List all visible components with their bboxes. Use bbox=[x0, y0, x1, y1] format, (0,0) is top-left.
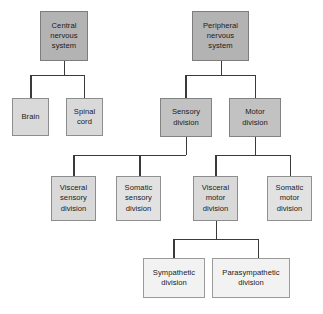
node-parasympathetic-division[interactable]: Parasympathetic division bbox=[212, 258, 290, 298]
connector-sensory-stem bbox=[186, 137, 188, 155]
node-somatic-sensory-division[interactable]: Somatic sensory division bbox=[116, 176, 161, 221]
connector-to-parasympathetic bbox=[258, 239, 260, 259]
connector-pns-bar bbox=[185, 75, 256, 77]
connector-cns-to-spinal-cord bbox=[84, 75, 86, 99]
connector-pns-to-sensory bbox=[185, 75, 187, 99]
connector-visceral-motor-stem bbox=[216, 221, 218, 239]
connector-pns-stem bbox=[221, 61, 223, 75]
node-visceral-sensory-division[interactable]: Visceral sensory division bbox=[51, 176, 96, 221]
connector-visceral-motor-bar bbox=[173, 239, 259, 241]
connector-sensory-to-visceral-sensory bbox=[73, 155, 75, 177]
connector-motor-to-visceral-motor bbox=[215, 155, 217, 177]
connector-motor-to-somatic-motor bbox=[290, 155, 292, 177]
connector-cns-to-brain bbox=[30, 75, 32, 99]
connector-cns-stem bbox=[64, 61, 66, 75]
connector-to-sympathetic bbox=[173, 239, 175, 259]
connector-motor-stem bbox=[255, 137, 257, 155]
connector-sensory-bar bbox=[73, 155, 186, 157]
connector-motor-bar bbox=[215, 155, 291, 157]
node-brain[interactable]: Brain bbox=[12, 98, 49, 136]
node-sympathetic-division[interactable]: Sympathetic division bbox=[143, 258, 205, 298]
node-sensory-division[interactable]: Sensory division bbox=[160, 98, 212, 137]
node-spinal-cord[interactable]: Spinal cord bbox=[66, 98, 103, 136]
connector-sensory-to-somatic-sensory bbox=[139, 155, 141, 177]
node-visceral-motor-division[interactable]: Visceral motor division bbox=[193, 176, 238, 221]
node-somatic-motor-division[interactable]: Somatic motor division bbox=[267, 176, 312, 221]
node-motor-division[interactable]: Motor division bbox=[229, 98, 281, 137]
nervous-system-diagram: Central nervous system Peripheral nervou… bbox=[0, 0, 323, 314]
node-peripheral-nervous-system[interactable]: Peripheral nervous system bbox=[192, 11, 249, 61]
connector-cns-bar bbox=[30, 75, 85, 77]
connector-pns-to-motor bbox=[255, 75, 257, 99]
node-central-nervous-system[interactable]: Central nervous system bbox=[40, 11, 88, 61]
